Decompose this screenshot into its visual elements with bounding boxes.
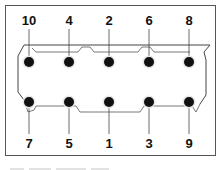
label-bolt-10: 10 [19,14,39,27]
label-bolt-2: 2 [99,14,119,27]
bolts-top [23,56,196,69]
bolt-4-icon [64,57,74,67]
label-bolt-5: 5 [59,137,79,150]
label-bolt-3: 3 [139,137,159,150]
label-bolt-8: 8 [179,14,199,27]
label-bolt-7: 7 [19,137,39,150]
faint-caption [10,160,130,166]
bolt-10-icon [24,57,34,67]
label-bolt-1: 1 [99,137,119,150]
bolts-bottom [23,96,196,109]
bolt-8-icon [184,57,194,67]
bolt-2-icon [104,57,114,67]
label-bolt-9: 9 [179,137,199,150]
bolt-3-icon [144,97,154,107]
bolt-6-icon [144,57,154,67]
label-bolt-4: 4 [59,14,79,27]
bolt-7-icon [24,97,34,107]
bolt-1-icon [104,97,114,107]
label-bolt-6: 6 [139,14,159,27]
bolt-9-icon [184,97,194,107]
bolt-5-icon [64,97,74,107]
